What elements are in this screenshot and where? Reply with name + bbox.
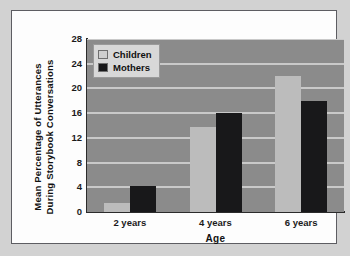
gridline xyxy=(87,39,344,40)
legend: Children Mothers xyxy=(93,44,160,78)
bar-mothers-2-years xyxy=(130,186,156,212)
legend-label-children: Children xyxy=(113,49,152,60)
legend-label-mothers: Mothers xyxy=(113,62,150,73)
y-tick-label-12: 12 xyxy=(38,133,82,143)
figure-outer-background: Mean Percentage of Utterances During Sto… xyxy=(0,0,350,256)
x-tick-label-2-years: 2 years xyxy=(87,217,173,228)
x-tick-label-6-years: 6 years xyxy=(258,217,344,228)
y-tick-label-20: 20 xyxy=(38,83,82,93)
figure-panel: Mean Percentage of Utterances During Sto… xyxy=(11,10,337,244)
legend-item-mothers: Mothers xyxy=(98,61,152,74)
bar-children-2-years xyxy=(104,203,130,212)
y-tick-label-4: 4 xyxy=(38,182,82,192)
y-tick-label-24: 24 xyxy=(38,59,82,69)
y-tick-label-16: 16 xyxy=(38,108,82,118)
y-tick-label-28: 28 xyxy=(38,34,82,44)
y-tick-label-0: 0 xyxy=(38,207,82,217)
x-axis-title: Age xyxy=(87,233,344,244)
legend-swatch-mothers-icon xyxy=(98,63,108,72)
legend-swatch-children-icon xyxy=(98,50,108,59)
legend-item-children: Children xyxy=(98,48,152,61)
y-tick-label-8: 8 xyxy=(38,158,82,168)
bar-mothers-6-years xyxy=(301,101,327,212)
gridline xyxy=(87,87,344,89)
x-tick-label-4-years: 4 years xyxy=(173,217,259,228)
bar-children-6-years xyxy=(275,76,301,212)
bar-children-4-years xyxy=(190,127,216,212)
bar-mothers-4-years xyxy=(216,113,242,212)
